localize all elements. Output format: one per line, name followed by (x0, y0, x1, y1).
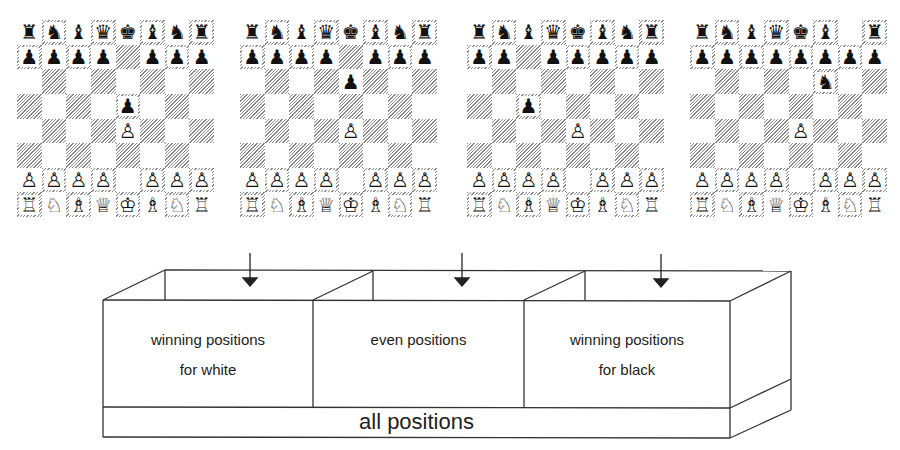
compartment-label-even: even positions (313, 325, 524, 355)
label-line: for white (103, 355, 313, 385)
arrow-1-head (243, 278, 257, 286)
box-right-top-slant (730, 271, 791, 301)
box-back-top-edge (165, 270, 791, 271)
box-bottom-edge (103, 437, 730, 438)
box-right-mid-slant (730, 379, 791, 408)
base-divider (103, 407, 730, 408)
label-line: for black (524, 355, 730, 385)
label-line: even positions (313, 325, 524, 355)
compartment-label-black: winning positions for black (524, 325, 730, 385)
divider-2-slant (524, 271, 585, 300)
label-line: winning positions (103, 325, 313, 355)
base-label-all-positions: all positions (103, 409, 730, 435)
box-left-slant (103, 270, 165, 300)
box-front-top-edge (103, 300, 730, 301)
arrow-3-head (654, 279, 668, 287)
arrow-2-head (455, 278, 469, 286)
label-line: winning positions (524, 325, 730, 355)
compartment-label-white: winning positions for white (103, 325, 313, 385)
box-right-bottom-slant (730, 410, 791, 438)
divider-1-slant (313, 271, 373, 300)
